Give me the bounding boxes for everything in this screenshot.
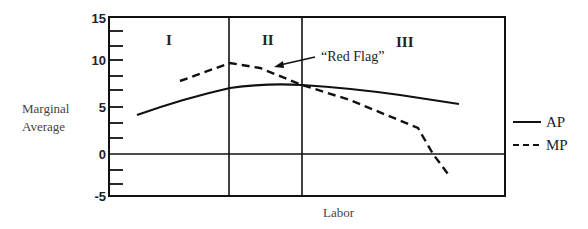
y-tick-neg5: -5	[94, 189, 106, 204]
region-label-2: II	[262, 32, 274, 48]
y-axis-label-line1: Marginal	[22, 101, 70, 116]
y-axis-label-line2: Average	[22, 119, 65, 134]
annotation-arrow-shaft	[280, 57, 315, 65]
region-label-1: I	[166, 32, 172, 48]
y-tick-10: 10	[92, 53, 106, 68]
region-label-3: III	[396, 34, 414, 50]
y-tick-5: 5	[99, 100, 106, 115]
annotation-arrowhead-icon	[274, 61, 284, 68]
production-chart: 15 10 5 0 -5 Marginal Average Labor I II…	[0, 0, 588, 229]
y-tick-0: 0	[99, 147, 106, 162]
x-axis-label: Labor	[323, 205, 355, 220]
y-axis-ticks	[109, 31, 123, 184]
legend-ap-label: AP	[546, 114, 565, 130]
ap-curve	[137, 84, 459, 115]
red-flag-annotation: “Red Flag”	[321, 49, 384, 64]
mp-curve	[180, 63, 448, 174]
legend-mp-label: MP	[546, 137, 568, 153]
y-tick-15: 15	[92, 11, 106, 26]
